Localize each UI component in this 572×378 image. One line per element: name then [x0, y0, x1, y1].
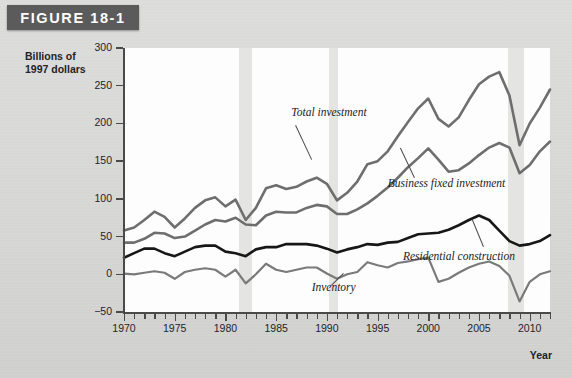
y-axis-tick-label: 50	[70, 230, 112, 242]
x-axis-tick	[550, 312, 551, 319]
x-axis-tick	[459, 312, 460, 319]
x-axis-tick	[266, 312, 267, 319]
x-axis-tick	[408, 312, 409, 319]
y-axis-tick	[116, 47, 123, 48]
x-axis-tick	[449, 312, 450, 319]
y-axis-tick	[116, 236, 123, 237]
x-axis-tick	[327, 312, 328, 321]
y-axis-tick	[116, 311, 123, 312]
y-axis-tick-label: 100	[70, 192, 112, 204]
y-axis-tick	[116, 85, 123, 86]
x-axis-tick-label: 1995	[358, 322, 398, 334]
x-axis-tick	[124, 312, 125, 321]
x-axis-tick-label: 1970	[104, 322, 144, 334]
x-axis-tick	[337, 312, 338, 319]
y-axis-tick	[116, 160, 123, 161]
x-axis-tick	[317, 312, 318, 319]
y-axis-tick	[116, 123, 123, 124]
figure-banner-label: FIGURE 18-1	[7, 5, 139, 30]
x-axis-tick	[134, 312, 135, 319]
x-axis-tick	[499, 312, 500, 319]
x-axis-tick	[165, 312, 166, 319]
x-axis-tick	[296, 312, 297, 319]
x-axis-tick-label: 1980	[205, 322, 245, 334]
x-axis-tick	[185, 312, 186, 319]
x-axis-tick	[367, 312, 368, 319]
x-axis-tick	[540, 312, 541, 319]
x-axis-tick	[347, 312, 348, 319]
x-axis-tick-label: 1985	[256, 322, 296, 334]
y-axis-tick-label: −50	[70, 305, 112, 317]
x-axis-tick	[276, 312, 277, 321]
x-axis-tick	[378, 312, 379, 321]
series-label: Business fixed investment	[388, 177, 506, 189]
x-axis-tick-label: 2005	[459, 322, 499, 334]
x-axis-tick-label: 2010	[510, 322, 550, 334]
y-axis-tick-label: 0	[70, 267, 112, 279]
y-axis-title-line2: 1997 dollars	[25, 63, 120, 76]
y-axis-tick	[116, 198, 123, 199]
x-axis-tick	[357, 312, 358, 319]
series-line	[124, 142, 550, 243]
x-axis-tick	[286, 312, 287, 319]
x-axis-tick	[520, 312, 521, 319]
x-axis-tick	[256, 312, 257, 319]
x-axis-tick	[418, 312, 419, 319]
x-axis-tick-label: 1975	[155, 322, 195, 334]
y-axis-title: Billions of 1997 dollars	[25, 50, 120, 76]
x-axis-tick	[438, 312, 439, 319]
x-axis-tick	[509, 312, 510, 319]
x-axis-tick	[225, 312, 226, 321]
y-axis-line	[123, 48, 125, 313]
x-axis-tick-label: 1990	[307, 322, 347, 334]
x-axis-tick	[246, 312, 247, 319]
x-axis-tick	[215, 312, 216, 319]
series-label: Residential construction	[403, 250, 515, 262]
y-axis-tick-label: 300	[70, 41, 112, 53]
series-label: Total investment	[291, 106, 366, 118]
x-axis-tick	[489, 312, 490, 319]
figure-banner: FIGURE 18-1	[7, 5, 139, 30]
x-axis-tick	[530, 312, 531, 321]
x-axis-tick-label: 2000	[408, 322, 448, 334]
x-axis-tick	[479, 312, 480, 321]
x-axis-tick	[469, 312, 470, 319]
y-axis-tick	[116, 274, 123, 275]
figure-container: FIGURE 18-1 Billions of 1997 dollars 300…	[0, 0, 572, 378]
x-axis-tick	[154, 312, 155, 319]
x-axis-tick	[195, 312, 196, 319]
y-axis-tick-label: 200	[70, 116, 112, 128]
x-axis-tick	[144, 312, 145, 319]
x-axis-tick	[236, 312, 237, 319]
x-axis-tick	[428, 312, 429, 321]
y-axis-tick-label: 150	[70, 154, 112, 166]
x-axis-tick	[175, 312, 176, 321]
x-axis-tick	[205, 312, 206, 319]
x-axis-tick	[398, 312, 399, 319]
x-axis-tick	[388, 312, 389, 319]
x-axis-tick	[307, 312, 308, 319]
y-axis-tick-label: 250	[70, 79, 112, 91]
x-axis-name: Year	[530, 349, 552, 361]
